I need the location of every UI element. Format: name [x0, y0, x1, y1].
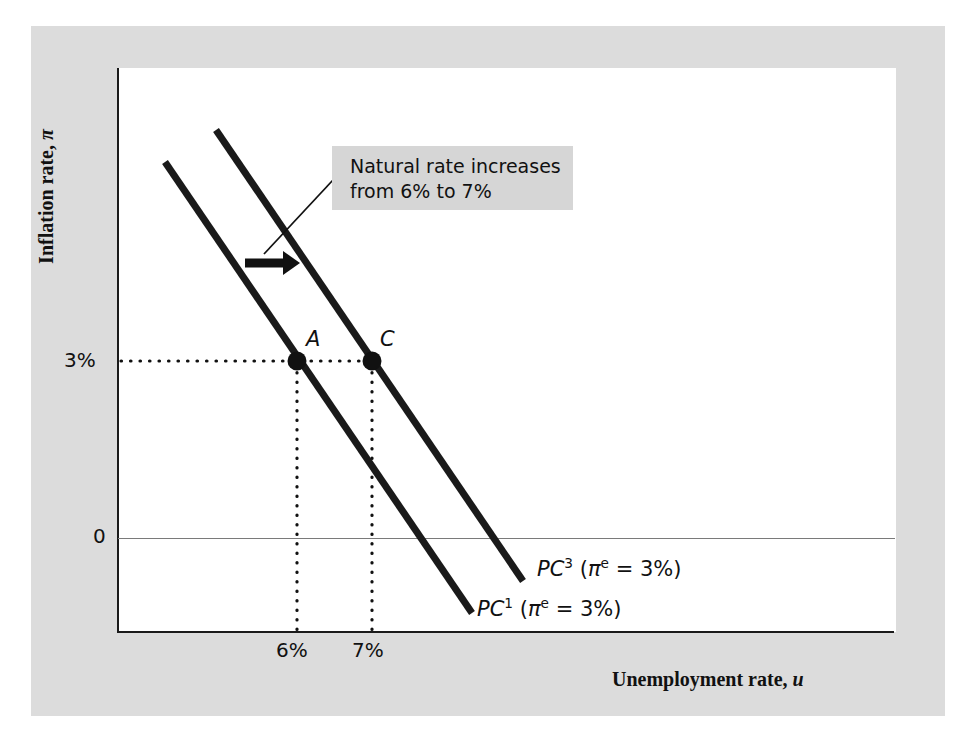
curve-label-pc3-superscript: 3 — [564, 555, 573, 571]
y-axis-title-text: Inflation rate, — [35, 145, 57, 264]
x-axis-title: Unemployment rate, u — [612, 668, 804, 691]
y-axis-title: Inflation rate, π — [35, 87, 58, 307]
curve-label-pc3-suffix: (πe = 3%) — [580, 557, 682, 581]
y-tick-label-0: 0 — [93, 524, 106, 548]
y-axis-line — [117, 68, 119, 632]
x-axis-line — [117, 631, 894, 633]
curve-label-pc1-suffix: (πe = 3%) — [520, 597, 622, 621]
point-label-a: A — [306, 327, 320, 351]
phillips-curve-figure: Inflation rate, π Unemployment rate, u 3… — [0, 0, 977, 740]
curve-label-pc3: PC3 (πe = 3%) — [537, 555, 681, 581]
annotation-line-1: Natural rate increases — [350, 154, 573, 179]
x-axis-title-symbol: u — [793, 668, 804, 690]
y-tick-label-3pct: 3% — [64, 348, 96, 372]
point-label-c: C — [380, 327, 395, 351]
curve-label-pc1-superscript: 1 — [504, 595, 513, 611]
curve-label-pc1-prefix: PC — [477, 597, 504, 621]
annotation-line-2: from 6% to 7% — [350, 179, 573, 204]
annotation-callout: Natural rate increases from 6% to 7% — [332, 146, 573, 210]
zero-inflation-line — [118, 538, 895, 539]
y-axis-title-symbol: π — [35, 129, 57, 140]
curve-label-pc1: PC1 (πe = 3%) — [477, 595, 621, 621]
x-axis-title-text: Unemployment rate, — [612, 668, 788, 690]
curve-label-pc3-prefix: PC — [537, 557, 564, 581]
x-tick-label-6pct: 6% — [276, 638, 308, 662]
x-tick-label-7pct: 7% — [352, 638, 384, 662]
